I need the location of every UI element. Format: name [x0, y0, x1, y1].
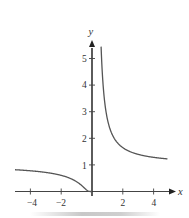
y-tick-label: 2	[82, 134, 87, 144]
y-axis-label: y	[88, 26, 94, 37]
function-graph: x y −4 −2 2 4 1 2 3 4 5	[0, 0, 189, 218]
y-tick-label: 5	[82, 54, 87, 64]
x-tick-label: 2	[121, 198, 126, 208]
y-tick-label: 3	[82, 107, 87, 117]
x-tick-label: −4	[27, 198, 37, 208]
y-axis-arrow-icon	[89, 40, 95, 47]
x-axis-label: x	[177, 186, 183, 197]
x-axis-arrow-icon	[169, 189, 176, 195]
curve-right-branch	[101, 47, 167, 159]
x-tick-label: 4	[152, 198, 157, 208]
curve-left-branch	[15, 170, 92, 192]
y-tick-label: 4	[82, 80, 87, 90]
bottom-shadow-bar	[30, 212, 160, 216]
y-tick-label: 1	[82, 161, 87, 171]
x-tick-label: −2	[56, 198, 66, 208]
